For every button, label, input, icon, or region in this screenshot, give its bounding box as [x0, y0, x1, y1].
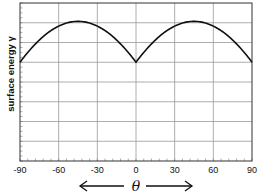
- grid: [20, 3, 252, 161]
- x-tick-label: -60: [52, 165, 65, 175]
- surface-energy-chart: -90-60-300306090 surface energy γ θ: [0, 0, 259, 196]
- x-tick-label: -30: [91, 165, 104, 175]
- x-tick-label: 0: [133, 165, 138, 175]
- x-tick-label: 60: [208, 165, 218, 175]
- x-tick-label: 30: [170, 165, 180, 175]
- x-tick-label: 90: [247, 165, 257, 175]
- x-tick-label: -90: [13, 165, 26, 175]
- x-axis-label: θ: [132, 178, 141, 194]
- x-tick-labels: -90-60-300306090: [13, 165, 257, 175]
- y-axis-label: surface energy γ: [5, 36, 16, 112]
